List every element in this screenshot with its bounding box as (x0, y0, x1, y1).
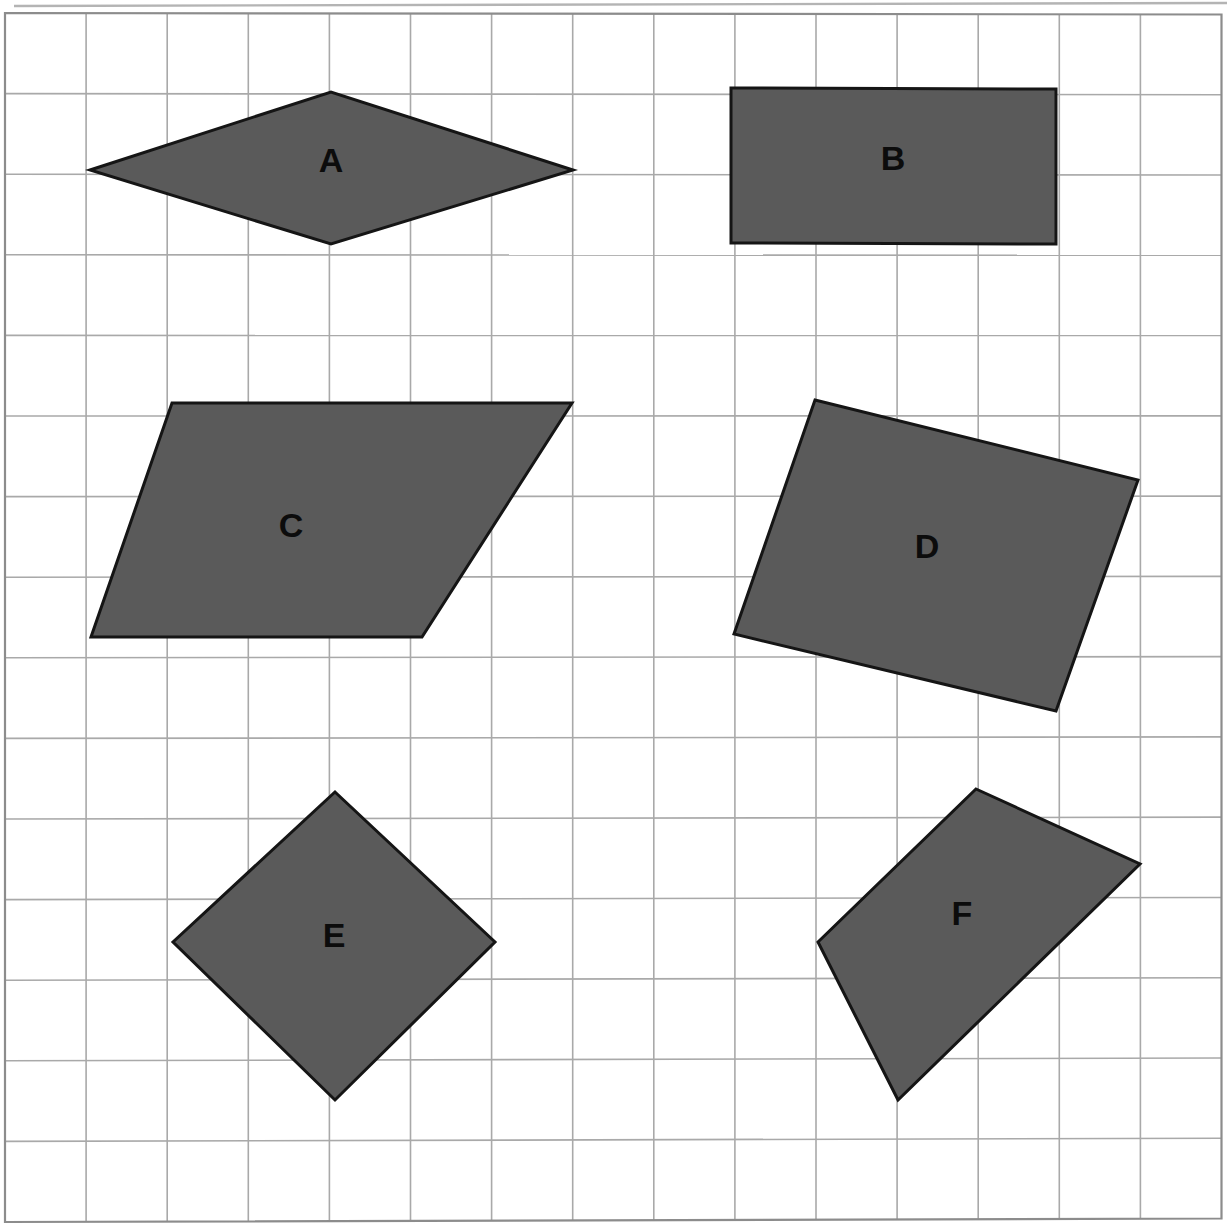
shape-label-e: E (323, 916, 346, 954)
shape-label-c: C (279, 506, 304, 544)
shapes-grid-figure: ABCDEF (0, 0, 1231, 1230)
shape-label-d: D (915, 527, 940, 565)
top-scan-rule (14, 3, 1227, 6)
grid-line-horizontal (5, 737, 1222, 739)
shape-c (91, 403, 572, 637)
shape-label-b: B (881, 139, 906, 177)
shape-label-f: F (952, 894, 973, 932)
top-rule (14, 3, 1227, 6)
grid-line-horizontal (5, 978, 1222, 981)
grid-line-horizontal (5, 255, 1222, 256)
worksheet-canvas: ABCDEF (0, 0, 1231, 1230)
grid-line-horizontal (5, 1138, 1222, 1141)
grid-line-horizontal (5, 1058, 1222, 1061)
shape-label-a: A (319, 141, 344, 179)
